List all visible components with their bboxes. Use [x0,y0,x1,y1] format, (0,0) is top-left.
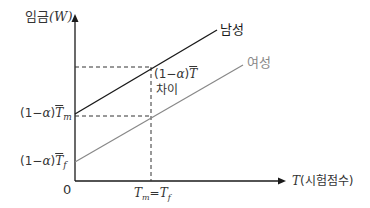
x-axis-symbol: T [292,174,300,188]
x-tick-right-T: T [160,186,168,200]
female-series-label: 여성 [247,56,271,69]
x-axis-label: T(시험점수) [292,175,353,187]
y-tick-female-label: (1−α)Tf [20,155,67,170]
y-axis-symbol: (W) [49,9,73,24]
y-tick-male-sub: m [63,112,72,122]
y-tick-male-prefix: (1− [20,106,42,120]
x-tick-eq: = [150,186,160,200]
y-tick-female-T: T [55,154,63,168]
y-axis-label-text: 임금 [25,9,49,24]
origin-label: 0 [63,183,71,196]
gap-caption: 차이 [156,84,178,96]
y-tick-male-T: T [55,106,63,120]
y-tick-male-label: (1−α)Tm [20,107,72,122]
x-tick-label: Tm=Tf [134,187,171,202]
gap-formula: (1−α)T [154,68,197,80]
gap-prefix: (1− [154,67,176,81]
y-axis-arrow-icon [72,14,79,22]
x-axis-arrow-icon [278,178,286,185]
y-tick-female-sub: f [63,160,66,170]
x-tick-left-sub: m [142,193,150,202]
male-series-label: 남성 [220,23,244,36]
x-tick-left-T: T [134,186,142,200]
y-axis-label: 임금(W) [25,10,73,23]
gap-T: T [189,67,197,81]
x-tick-right-sub: f [168,193,171,202]
x-axis-label-text: (시험점수) [300,174,353,188]
y-tick-female-prefix: (1− [20,154,42,168]
